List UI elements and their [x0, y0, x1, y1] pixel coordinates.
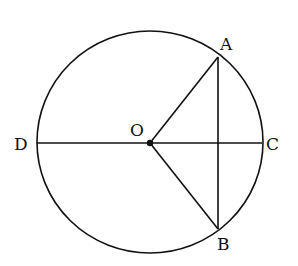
geometry-diagram: A B C D O [0, 0, 298, 266]
label-c: C [266, 134, 279, 154]
label-o: O [130, 120, 144, 140]
label-d: D [14, 134, 28, 154]
radius-oa [150, 57, 218, 143]
center-point [147, 140, 153, 146]
radius-ob [150, 143, 218, 229]
label-a: A [219, 34, 233, 54]
label-b: B [217, 234, 230, 254]
